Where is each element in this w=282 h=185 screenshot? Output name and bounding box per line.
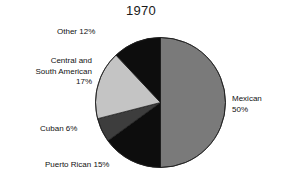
slice-label-csa-line1: Central and — [51, 56, 92, 65]
slice-label-puerto-rican: Puerto Rican 15% — [45, 160, 109, 171]
slice-label-csa-line2: South American — [36, 67, 92, 76]
pie-slice-group — [95, 38, 225, 168]
slice-label-mexican-line2: 50% — [232, 105, 248, 114]
pie-chart-figure: 1970 Other 12% Central and South America… — [0, 0, 282, 185]
slice-label-mexican: Mexican 50% — [232, 94, 262, 115]
slice-label-other: Other 12% — [57, 27, 95, 38]
slice-label-mexican-line1: Mexican — [232, 94, 262, 103]
pie-chart-graphic — [95, 37, 226, 168]
pie-svg — [95, 37, 226, 168]
slice-label-central-and-south-american: Central and South American 17% — [0, 56, 92, 88]
slice-label-csa-line3: 17% — [76, 77, 92, 86]
slice-label-cuban: Cuban 6% — [40, 124, 77, 135]
chart-title: 1970 — [0, 3, 282, 18]
pie-slice-mexican — [161, 38, 226, 168]
